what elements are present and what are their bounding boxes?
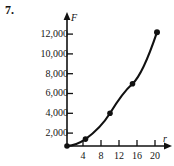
y-axis-tick-label: 12,000	[22, 29, 68, 39]
y-axis-tick-label: 8,000	[22, 69, 68, 79]
figure-container: 7. 12,000 10,000 8,000 6,000	[0, 0, 174, 166]
x-axis-tick-label: 20	[145, 151, 165, 161]
y-axis-tick-label: 10,000	[22, 49, 68, 59]
y-axis-arrow-icon	[64, 12, 71, 20]
y-axis-tick-label: 2,000	[22, 128, 68, 138]
data-point	[83, 136, 89, 142]
data-point	[154, 29, 160, 35]
y-axis-tick-label: 4,000	[22, 108, 68, 118]
x-axis-label: r	[163, 134, 167, 144]
data-point	[64, 143, 70, 149]
x-axis-tick-label: 8	[91, 151, 111, 161]
y-axis-label: F	[71, 13, 77, 23]
x-axis-tick-label: 4	[73, 151, 93, 161]
y-axis-tick-label: 6,000	[22, 88, 68, 98]
x-axis-tick-label: 16	[127, 151, 147, 161]
x-axis-tick-label: 12	[109, 151, 129, 161]
data-point	[130, 81, 136, 87]
plot-area	[0, 0, 174, 166]
data-curve	[67, 32, 157, 146]
data-point	[107, 111, 113, 117]
